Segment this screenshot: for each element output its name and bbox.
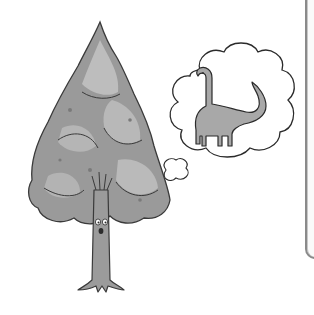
small-thought-puff (164, 159, 188, 181)
illustration-canvas (0, 0, 314, 315)
